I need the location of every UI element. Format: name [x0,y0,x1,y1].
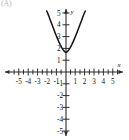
y-tick-label: 5 [57,10,61,18]
x-tick-label: 5 [111,78,115,86]
y-tick-label: 1 [57,57,61,65]
y-tick-label: 2 [57,45,61,53]
x-tick-label: 3 [92,78,96,86]
x-tick-label: -2 [44,78,50,86]
x-axis [5,70,123,74]
y-tick-label: -1 [57,80,63,88]
x-tick-label: 1 [73,78,77,86]
parabola-figure: (A) [0,0,129,140]
y-axis-name: y [69,8,74,16]
y-tick-label: -4 [57,116,63,124]
y-tick-label: 3 [57,33,61,41]
y-tick-label: -5 [57,128,63,136]
x-tick-label: -5 [16,78,22,86]
x-tick-label: -3 [35,78,41,86]
x-tick-label: -4 [25,78,31,86]
x-axis-name: x [116,61,121,69]
x-tick-labels: -5 -4 -3 -2 -1 1 2 3 4 5 [16,78,115,86]
x-tick-label: 4 [102,78,106,86]
coordinate-plane: -5 -4 -3 -2 -1 1 2 3 4 5 5 4 3 2 1 -1 -2… [0,0,129,140]
y-tick-labels: 5 4 3 2 1 -1 -2 -3 -4 -5 [57,10,63,136]
y-tick-label: -3 [57,104,63,112]
y-tick-label: 4 [57,21,61,29]
x-tick-label: 2 [83,78,87,86]
y-tick-label: -2 [57,92,63,100]
